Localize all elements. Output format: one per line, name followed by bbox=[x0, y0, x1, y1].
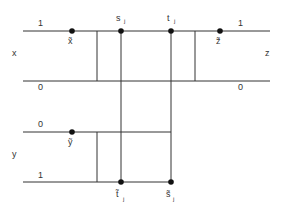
s-j-label: s bbox=[116, 13, 121, 23]
x-right-top-value: 1 bbox=[238, 18, 243, 28]
t-tilde-j-label: t̃ bbox=[115, 189, 120, 199]
z-variable-label: z bbox=[265, 48, 270, 58]
t-j-label: t bbox=[167, 13, 170, 23]
s-tilde-j-label: s̃ bbox=[166, 189, 171, 199]
s-j-subscript: j bbox=[123, 18, 125, 24]
x-right-bottom-value: 0 bbox=[238, 82, 243, 92]
t-j-subscript: j bbox=[173, 18, 175, 24]
y-top-value: 0 bbox=[38, 119, 43, 129]
x-bottom-value: 0 bbox=[38, 82, 43, 92]
s-j-point bbox=[118, 28, 124, 34]
y-tilde-point bbox=[69, 129, 75, 135]
z-tilde-label: z̃ bbox=[216, 36, 221, 46]
s-tilde-j-point bbox=[168, 179, 174, 185]
t-j-point bbox=[168, 28, 174, 34]
switching-diagram: 1 0 1 0 0 1 x y z x̃ z̃ ỹ s j t j t̃ j … bbox=[0, 0, 283, 215]
y-bottom-value: 1 bbox=[38, 170, 43, 180]
x-variable-label: x bbox=[12, 48, 17, 58]
z-tilde-point bbox=[217, 28, 223, 34]
x-tilde-label: x̃ bbox=[68, 36, 73, 46]
x-top-value: 1 bbox=[38, 18, 43, 28]
t-tilde-j-subscript: j bbox=[122, 196, 124, 202]
y-variable-label: y bbox=[12, 149, 17, 159]
x-tilde-point bbox=[69, 28, 75, 34]
y-tilde-label: ỹ bbox=[68, 137, 73, 147]
s-tilde-j-subscript: j bbox=[172, 196, 174, 202]
t-tilde-j-point bbox=[118, 179, 124, 185]
